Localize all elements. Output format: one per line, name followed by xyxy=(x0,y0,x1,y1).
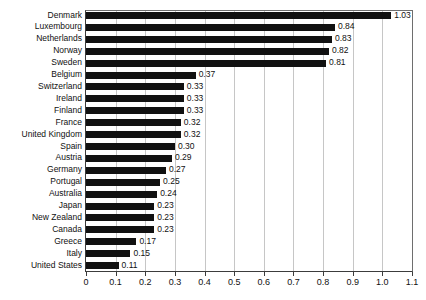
category-label: Japan xyxy=(0,200,82,211)
bar-row: New Zealand0.23 xyxy=(0,212,426,223)
bar xyxy=(86,36,332,43)
x-axis: 00.10.20.30.40.50.60.70.80.91.01.1 xyxy=(0,272,426,300)
bar-value-label: 0.33 xyxy=(187,105,204,116)
bar-value-label: 0.84 xyxy=(338,21,355,32)
bar-value-label: 0.24 xyxy=(160,188,177,199)
bar-value-label: 0.23 xyxy=(157,224,174,235)
x-tick-mark xyxy=(175,272,176,276)
x-tick-mark xyxy=(382,272,383,276)
bar-value-label: 0.23 xyxy=(157,212,174,223)
bar xyxy=(86,60,326,67)
bar-value-label: 0.17 xyxy=(139,236,156,247)
x-tick-label: 1.1 xyxy=(392,277,426,288)
bar-row: Netherlands0.83 xyxy=(0,34,426,45)
bar-value-label: 0.32 xyxy=(184,129,201,140)
category-label: New Zealand xyxy=(0,212,82,223)
category-label: Sweden xyxy=(0,57,82,68)
bar-row: Australia0.24 xyxy=(0,189,426,200)
bar-row: Sweden0.81 xyxy=(0,58,426,69)
bar-row: Finland0.33 xyxy=(0,105,426,116)
bar xyxy=(86,155,172,162)
bar xyxy=(86,131,181,138)
x-tick-mark xyxy=(323,272,324,276)
bar-value-label: 0.37 xyxy=(199,69,216,80)
category-label: Belgium xyxy=(0,69,82,80)
bar xyxy=(86,107,184,114)
x-tick-mark xyxy=(205,272,206,276)
bar-row: Austria0.29 xyxy=(0,153,426,164)
bar-value-label: 0.30 xyxy=(178,141,195,152)
bar xyxy=(86,203,154,210)
x-tick-mark xyxy=(86,272,87,276)
bar xyxy=(86,143,175,150)
bar-row: United Kingdom0.32 xyxy=(0,129,426,140)
bar-value-label: 0.32 xyxy=(184,117,201,128)
bar xyxy=(86,191,157,198)
x-tick-mark xyxy=(145,272,146,276)
bar-row: Spain0.30 xyxy=(0,141,426,152)
category-label: Australia xyxy=(0,188,82,199)
category-label: Switzerland xyxy=(0,81,82,92)
bar-row: Germany0.27 xyxy=(0,165,426,176)
category-label: France xyxy=(0,117,82,128)
x-tick-mark xyxy=(293,272,294,276)
category-label: Italy xyxy=(0,248,82,259)
bar xyxy=(86,119,181,126)
bar-value-label: 0.33 xyxy=(187,93,204,104)
category-label: Ireland xyxy=(0,93,82,104)
bar xyxy=(86,167,166,174)
category-label: Austria xyxy=(0,152,82,163)
category-label: Germany xyxy=(0,164,82,175)
category-label: Spain xyxy=(0,141,82,152)
bar xyxy=(86,214,154,221)
bar-value-label: 0.23 xyxy=(157,200,174,211)
category-label: Luxembourg xyxy=(0,21,82,32)
category-label: Portugal xyxy=(0,176,82,187)
bar-value-label: 0.82 xyxy=(332,45,349,56)
bar xyxy=(86,83,184,90)
category-label: United Kingdom xyxy=(0,129,82,140)
bar-row: Ireland0.33 xyxy=(0,93,426,104)
category-label: Denmark xyxy=(0,10,82,21)
x-tick-mark xyxy=(234,272,235,276)
bar-value-label: 0.11 xyxy=(122,260,138,271)
x-tick-mark xyxy=(264,272,265,276)
bar xyxy=(86,24,335,31)
bar xyxy=(86,238,136,245)
category-label: Netherlands xyxy=(0,33,82,44)
bar-row: Denmark1.03 xyxy=(0,10,426,21)
bar xyxy=(86,179,160,186)
bar-value-label: 0.25 xyxy=(163,176,180,187)
bar-value-label: 0.15 xyxy=(133,248,150,259)
bar-value-label: 1.03 xyxy=(394,10,411,21)
bar-row: France0.32 xyxy=(0,117,426,128)
bar-row: Italy0.15 xyxy=(0,248,426,259)
bar-row: Belgium0.37 xyxy=(0,70,426,81)
bar-chart: Denmark1.03Luxembourg0.84Netherlands0.83… xyxy=(0,0,426,300)
category-label: Greece xyxy=(0,236,82,247)
bar-row: Greece0.17 xyxy=(0,236,426,247)
bar-value-label: 0.27 xyxy=(169,164,186,175)
bar-value-label: 0.83 xyxy=(335,33,352,44)
bar-row: United States0.11 xyxy=(0,260,426,271)
category-label: Norway xyxy=(0,45,82,56)
bar-row: Japan0.23 xyxy=(0,201,426,212)
bar-value-label: 0.33 xyxy=(187,81,204,92)
bar-row: Portugal0.25 xyxy=(0,177,426,188)
bar xyxy=(86,250,130,257)
bar-row: Canada0.23 xyxy=(0,224,426,235)
bar xyxy=(86,262,119,269)
bar xyxy=(86,12,391,19)
bar-rows: Denmark1.03Luxembourg0.84Netherlands0.83… xyxy=(0,10,426,272)
bar-value-label: 0.81 xyxy=(329,57,346,68)
x-tick-mark xyxy=(353,272,354,276)
category-label: United States xyxy=(0,260,82,271)
bar-row: Norway0.82 xyxy=(0,46,426,57)
category-label: Canada xyxy=(0,224,82,235)
bar xyxy=(86,95,184,102)
x-tick-mark xyxy=(116,272,117,276)
bar-row: Luxembourg0.84 xyxy=(0,22,426,33)
bar xyxy=(86,48,329,55)
bar xyxy=(86,226,154,233)
bar xyxy=(86,72,196,79)
